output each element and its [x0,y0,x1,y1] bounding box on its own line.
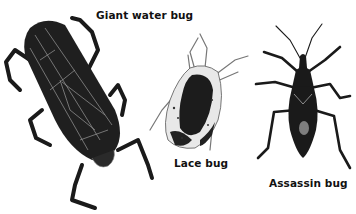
assassin-bug-illustration [256,24,350,168]
label-giant-water-bug: Giant water bug [96,9,193,21]
lace-bug-illustration [150,34,248,150]
giant-water-bug-illustration [6,18,152,208]
label-lace-bug: Lace bug [174,157,228,169]
insect-illustration: Giant water bug Lace bug Assassin bug [0,0,356,214]
label-assassin-bug: Assassin bug [269,177,348,189]
